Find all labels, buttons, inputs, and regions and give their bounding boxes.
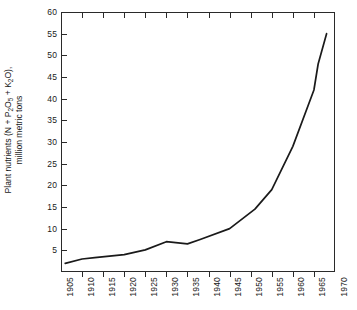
x-tick-label-1945: 1945 <box>234 277 243 297</box>
y-tick-label-5: 5 <box>35 250 57 259</box>
x-tick-mark-top-1945 <box>230 13 231 18</box>
y-tick-mark-35 <box>61 120 67 121</box>
x-tick-mark-top-1915 <box>103 13 104 18</box>
y-tick-label-10: 10 <box>35 229 57 238</box>
x-tick-mark-1945 <box>230 272 231 277</box>
y-tick-mark-15 <box>61 207 67 208</box>
y-tick-label-50: 50 <box>35 55 57 64</box>
y-tick-mark-10 <box>61 229 67 230</box>
x-tick-mark-top-1960 <box>293 13 294 18</box>
y-tick-mark-55 <box>61 34 67 35</box>
x-tick-mark-1925 <box>145 272 146 277</box>
x-tick-mark-top-1930 <box>166 13 167 18</box>
y-tick-mark-50 <box>61 55 67 56</box>
x-tick-mark-top-1935 <box>187 13 188 18</box>
x-tick-mark-1940 <box>209 272 210 277</box>
y-tick-label-55: 55 <box>35 34 57 43</box>
x-tick-label-1960: 1960 <box>297 277 306 297</box>
x-tick-label-1915: 1915 <box>108 277 117 297</box>
x-tick-mark-top-1920 <box>124 13 125 18</box>
x-tick-mark-top-1910 <box>82 13 83 18</box>
x-tick-mark-1950 <box>251 272 252 277</box>
x-tick-mark-1920 <box>124 272 125 277</box>
x-tick-mark-1965 <box>314 272 315 277</box>
x-tick-mark-top-1965 <box>314 13 315 18</box>
x-tick-mark-1915 <box>103 272 104 277</box>
y-tick-label-25: 25 <box>35 164 57 173</box>
y-axis: 51015202530354045505560 <box>0 0 357 310</box>
x-tick-label-1920: 1920 <box>129 277 138 297</box>
x-tick-label-1905: 1905 <box>66 277 75 297</box>
x-tick-mark-1960 <box>293 272 294 277</box>
x-tick-label-1940: 1940 <box>213 277 222 297</box>
x-tick-mark-top-1940 <box>209 13 210 18</box>
x-tick-mark-1910 <box>82 272 83 277</box>
y-tick-label-60: 60 <box>35 12 57 21</box>
x-tick-mark-top-1950 <box>251 13 252 18</box>
y-tick-mark-20 <box>61 185 67 186</box>
y-tick-label-40: 40 <box>35 99 57 108</box>
x-tick-label-1910: 1910 <box>87 277 96 297</box>
y-tick-label-45: 45 <box>35 77 57 86</box>
x-tick-mark-top-1955 <box>272 13 273 18</box>
y-tick-mark-5 <box>61 250 67 251</box>
x-tick-mark-1955 <box>272 272 273 277</box>
x-tick-label-1950: 1950 <box>255 277 264 297</box>
x-tick-mark-1935 <box>187 272 188 277</box>
y-tick-mark-25 <box>61 164 67 165</box>
x-tick-label-1925: 1925 <box>150 277 159 297</box>
x-tick-mark-top-1925 <box>145 13 146 18</box>
x-tick-label-1970: 1970 <box>340 277 349 297</box>
x-tick-label-1935: 1935 <box>192 277 201 297</box>
y-tick-label-35: 35 <box>35 120 57 129</box>
x-tick-label-1965: 1965 <box>318 277 327 297</box>
chart-figure: Plant nutrients (N + P2O5 + K2O), millio… <box>0 0 357 310</box>
y-tick-mark-30 <box>61 142 67 143</box>
y-tick-mark-40 <box>61 99 67 100</box>
x-tick-label-1930: 1930 <box>171 277 180 297</box>
y-tick-mark-45 <box>61 77 67 78</box>
y-tick-label-20: 20 <box>35 185 57 194</box>
x-tick-mark-1930 <box>166 272 167 277</box>
x-tick-label-1955: 1955 <box>276 277 285 297</box>
y-tick-label-30: 30 <box>35 142 57 151</box>
y-tick-label-15: 15 <box>35 207 57 216</box>
